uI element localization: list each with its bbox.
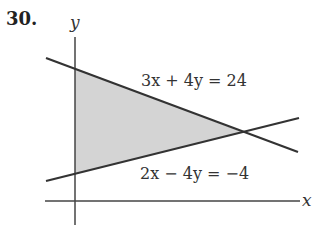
x-axis-label: x bbox=[302, 190, 312, 210]
equation-label-2: 2x − 4y = −4 bbox=[140, 164, 249, 183]
equation-label-1: 3x + 4y = 24 bbox=[141, 71, 247, 90]
graph-canvas bbox=[0, 0, 319, 227]
y-axis-label: y bbox=[70, 12, 80, 32]
problem-number: 30. bbox=[6, 8, 37, 29]
diagram: 30. y x 3x + 4y = 24 2x − 4y = −4 bbox=[0, 0, 319, 227]
